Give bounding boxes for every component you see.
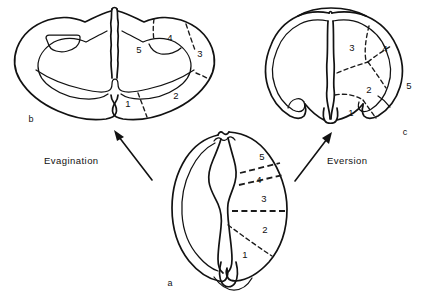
panel-b-outer-outline: [15, 11, 117, 120]
eversion-arrow-head: [322, 132, 332, 144]
panel-b-central-slit-left: [111, 9, 112, 78]
panel-c-divider-3-4: [365, 26, 369, 61]
panel-c-outer-wall-right: [332, 12, 402, 118]
panel-a-divider-5-4: [240, 163, 280, 173]
panel-c-divider-top-2: [337, 62, 368, 73]
panel-c-region-5: 5: [406, 80, 411, 91]
evagination-label: Evagination: [44, 155, 99, 166]
panel-c-region-2: 2: [366, 84, 371, 95]
panel-c-septum-right: [331, 21, 334, 119]
panel-b: 5 4 3 2 1 b: [15, 8, 215, 125]
panel-c: 3 4 5 2 1 c: [266, 8, 412, 137]
eversion-arrow-shaft: [295, 139, 327, 181]
panel-c-region-4: 4: [382, 43, 387, 54]
panel-a-region-5: 5: [259, 151, 264, 162]
panel-a: 5 4 3 2 1 a: [167, 132, 287, 290]
evagination-arrow-shaft: [119, 137, 152, 180]
panel-a-median-furrow-right: [227, 138, 236, 273]
panel-b-central-slit-cap: [112, 8, 117, 10]
panel-b-central-slit-right: [117, 9, 118, 78]
panel-b-region-1: 1: [125, 98, 130, 109]
panel-b-letter: b: [28, 114, 33, 124]
panel-b-left-lumen: [38, 31, 108, 99]
evagination-arrow-head: [114, 130, 124, 141]
panel-a-region-2: 2: [262, 224, 267, 235]
panel-c-divider-2-1: [335, 94, 363, 100]
panel-a-letter: a: [167, 278, 172, 288]
panel-c-inner-wall-left: [273, 20, 328, 112]
panel-c-region-1: 1: [348, 107, 353, 118]
panel-a-region-4: 4: [256, 174, 261, 185]
diagram-canvas: 5 4 3 2 1 b: [0, 0, 446, 302]
panel-a-top-rim-inner: [214, 137, 235, 141]
panel-c-inner-wall-right: [333, 20, 390, 112]
panel-c-bottom-rim-left: [305, 104, 324, 120]
figure-root: 5 4 3 2 1 b: [0, 0, 446, 302]
panel-a-region-3: 3: [261, 193, 266, 204]
eversion-label: Eversion: [327, 155, 368, 166]
panel-b-divider-3-2: [196, 73, 207, 78]
panel-b-divider-5-4: [153, 19, 154, 41]
panel-b-divider-4-3: [186, 24, 195, 50]
panel-b-region-4: 4: [167, 32, 172, 43]
panel-a-top-rim: [218, 132, 229, 135]
panel-c-divider-1-bottom: [363, 100, 376, 118]
panel-c-septum-left: [327, 21, 330, 119]
panel-a-region-1: 1: [242, 249, 247, 260]
panel-c-top-rim: [329, 12, 332, 14]
panel-b-right-lumen: [121, 31, 191, 99]
panel-c-left-pocket: [288, 99, 304, 108]
panel-c-outer-wall: [266, 12, 329, 118]
panel-c-region-3: 3: [349, 42, 354, 53]
panel-b-region-2: 2: [173, 90, 178, 101]
panel-b-right-inner-pocket: [149, 44, 181, 54]
evagination-arrow: [114, 130, 152, 180]
panel-b-divider-2-1: [138, 93, 147, 117]
panel-a-median-furrow-left: [209, 139, 223, 273]
panel-c-letter: c: [403, 127, 408, 137]
panel-b-region-3: 3: [197, 48, 202, 59]
panel-b-region-5: 5: [136, 44, 141, 55]
panel-a-outer-outline-right: [226, 132, 287, 281]
panel-b-floor-wall: [36, 70, 194, 92]
